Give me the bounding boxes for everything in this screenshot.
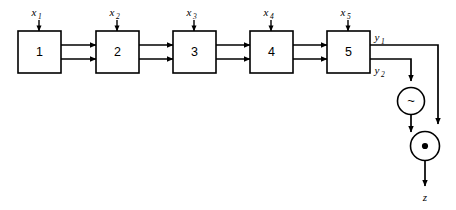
block-3[interactable]: 3 (173, 31, 216, 73)
output-label-y2: y (374, 64, 380, 76)
output-routing-group (370, 45, 438, 186)
input-sub-x2: 2 (116, 12, 120, 21)
input-arrow-group (39, 20, 348, 31)
input-sub-x3: 3 (192, 12, 197, 21)
tilde-icon: ~ (407, 93, 415, 108)
not-gate[interactable]: ~ (398, 88, 425, 115)
input-label-group: x 1 x 2 x 3 x 4 x 5 (31, 6, 351, 21)
input-label-x2: x (109, 6, 115, 18)
output-sub-y1: 1 (381, 37, 385, 46)
block-diagram: x 1 x 2 x 3 x 4 x 5 (0, 0, 456, 210)
input-label-x5: x (340, 6, 346, 18)
diagram-canvas: x 1 x 2 x 3 x 4 x 5 (0, 0, 456, 210)
input-label-x4: x (263, 6, 269, 18)
block-5-label: 5 (345, 45, 352, 59)
input-sub-x5: 5 (347, 12, 351, 21)
block-1[interactable]: 1 (18, 31, 61, 73)
block-2-label: 2 (114, 45, 121, 59)
block-3-label: 3 (191, 45, 198, 59)
output-label-y1: y (374, 31, 380, 43)
block-4[interactable]: 4 (250, 31, 293, 73)
block-5[interactable]: 5 (327, 31, 370, 73)
block-2[interactable]: 2 (96, 31, 139, 73)
input-sub-x4: 4 (270, 12, 274, 21)
output-label-group: y 1 y 2 (374, 31, 385, 79)
block-1-label: 1 (36, 45, 43, 59)
and-gate[interactable] (411, 132, 440, 161)
output-sub-y2: 2 (381, 70, 385, 79)
input-sub-x1: 1 (38, 12, 42, 21)
block-group: 1 2 3 4 5 (18, 31, 370, 73)
output-label-z: z (422, 191, 428, 203)
block-4-label: 4 (268, 45, 275, 59)
gate-group: ~ (398, 88, 440, 161)
input-label-x1: x (31, 6, 37, 18)
dot-icon (422, 143, 428, 149)
input-label-x3: x (186, 6, 192, 18)
